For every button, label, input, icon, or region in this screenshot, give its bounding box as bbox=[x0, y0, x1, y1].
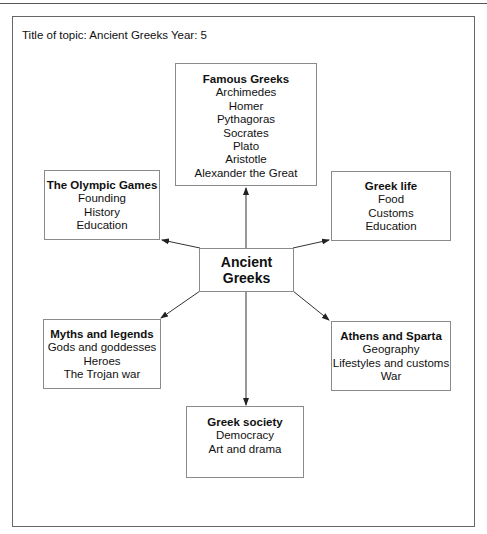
node-item: Archimedes bbox=[176, 86, 316, 99]
node-item: Customs bbox=[332, 207, 450, 220]
node-item: Heroes bbox=[44, 355, 160, 368]
node-item: Alexander the Great bbox=[176, 167, 316, 180]
node-greek-society: Greek society Democracy Art and drama bbox=[186, 406, 304, 478]
node-greek-life: Greek life Food Customs Education bbox=[331, 171, 451, 241]
node-item: Education bbox=[45, 219, 159, 232]
node-olympic-games: The Olympic Games Founding History Educa… bbox=[44, 170, 160, 240]
node-item: Art and drama bbox=[187, 443, 303, 456]
node-athens-sparta: Athens and Sparta Geography Lifestyles a… bbox=[331, 321, 451, 391]
center-line-1: Ancient bbox=[221, 254, 272, 270]
arrow-to-greek-life bbox=[293, 240, 329, 248]
node-heading: The Olympic Games bbox=[45, 179, 159, 192]
node-myths-legends: Myths and legends Gods and goddesses Her… bbox=[43, 319, 161, 389]
node-heading: Athens and Sparta bbox=[332, 330, 450, 343]
node-item: Lifestyles and customs bbox=[332, 357, 450, 370]
node-heading: Greek society bbox=[187, 416, 303, 429]
arrow-to-myths-legends bbox=[161, 291, 200, 318]
node-heading: Greek life bbox=[332, 180, 450, 193]
arrow-to-athens-sparta bbox=[293, 291, 329, 320]
node-item: War bbox=[332, 370, 450, 383]
node-item: History bbox=[45, 206, 159, 219]
node-item: Pythagoras bbox=[176, 113, 316, 126]
node-item: Aristotle bbox=[176, 153, 316, 166]
node-heading: Famous Greeks bbox=[176, 73, 316, 86]
node-item: Democracy bbox=[187, 429, 303, 442]
node-item: Socrates bbox=[176, 127, 316, 140]
node-item: Plato bbox=[176, 140, 316, 153]
node-item: The Trojan war bbox=[44, 368, 160, 381]
node-item: Founding bbox=[45, 192, 159, 205]
node-item: Homer bbox=[176, 100, 316, 113]
arrow-to-olympic-games bbox=[162, 240, 200, 248]
node-item: Gods and goddesses bbox=[44, 341, 160, 354]
center-line-2: Greeks bbox=[223, 270, 270, 286]
node-famous-greeks: Famous Greeks Archimedes Homer Pythagora… bbox=[175, 63, 317, 186]
node-item: Geography bbox=[332, 343, 450, 356]
node-item: Education bbox=[332, 220, 450, 233]
node-heading: Myths and legends bbox=[44, 328, 160, 341]
node-item: Food bbox=[332, 193, 450, 206]
node-ancient-greeks-center: Ancient Greeks bbox=[199, 248, 294, 292]
